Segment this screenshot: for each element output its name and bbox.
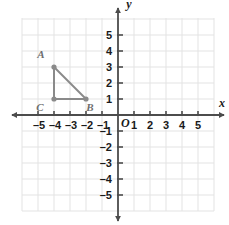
x-tick-label: –3 [65, 119, 77, 131]
y-tick-label: –4 [100, 173, 113, 185]
x-tick-label: 4 [179, 119, 186, 131]
x-axis-label: x [218, 96, 225, 110]
axis-names: xy [124, 0, 225, 110]
x-tick-label: –2 [81, 119, 93, 131]
x-tick-label: –5 [33, 119, 45, 131]
x-tick-label: –4 [49, 119, 62, 131]
y-tick-label: –5 [100, 189, 112, 201]
x-tick-label: 5 [195, 119, 201, 131]
y-tick-label: 1 [106, 93, 112, 105]
x-tick-label: 1 [131, 119, 137, 131]
x-tick-label: 2 [147, 119, 153, 131]
y-tick-label: –3 [100, 157, 112, 169]
vertex-a [51, 64, 56, 69]
y-tick-label: 5 [106, 29, 112, 41]
axes [12, 8, 224, 221]
x-tick-label: 3 [163, 119, 169, 131]
vertex-label-b: B [85, 101, 93, 113]
vertex-label-c: C [36, 101, 44, 113]
coordinate-plane-figure: –5–4–3–2–112345–5–4–3–2–112345O xy ABC [0, 0, 229, 225]
y-tick-label: –1 [100, 125, 112, 137]
y-axis-label: y [124, 0, 132, 11]
vertex-c [51, 96, 56, 101]
vertex-labels: ABC [36, 48, 93, 113]
vertex-label-a: A [36, 48, 44, 60]
coordinate-grid-svg: –5–4–3–2–112345–5–4–3–2–112345O xy ABC [0, 0, 229, 225]
origin-label: O [121, 116, 130, 130]
y-tick-label: 4 [106, 45, 113, 57]
y-tick-label: –2 [100, 141, 112, 153]
y-tick-label: 2 [106, 77, 112, 89]
y-tick-label: 3 [106, 61, 112, 73]
